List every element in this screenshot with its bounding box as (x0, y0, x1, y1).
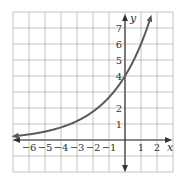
x-tick-label: −1 (102, 142, 117, 153)
y-tick-label: 7 (116, 23, 122, 34)
x-tick-label: −3 (70, 142, 85, 153)
x-tick-label: −2 (86, 142, 101, 153)
x-tick-labels: −6−5−4−3−2−112 (22, 142, 161, 153)
exponential-curve (15, 18, 151, 137)
y-tick-label: 2 (116, 103, 122, 114)
x-tick-label: 1 (138, 142, 144, 153)
x-axis-label: x (167, 141, 174, 154)
y-tick-label: 6 (116, 39, 122, 50)
x-tick-label: −5 (38, 142, 53, 153)
x-tick-label: −6 (22, 142, 37, 153)
x-tick-label: −4 (54, 142, 69, 153)
y-axis-down-arrow-icon (122, 165, 128, 172)
exponential-graph: x y −6−5−4−3−2−112 124567 (0, 0, 179, 187)
curve-end-arrow-icon (146, 15, 152, 23)
y-tick-labels: 124567 (116, 23, 122, 130)
y-axis-label: y (129, 12, 137, 25)
x-tick-label: 2 (154, 142, 160, 153)
y-tick-label: 1 (116, 119, 122, 130)
y-axis-arrow-icon (122, 14, 128, 21)
y-tick-label: 5 (116, 55, 122, 66)
